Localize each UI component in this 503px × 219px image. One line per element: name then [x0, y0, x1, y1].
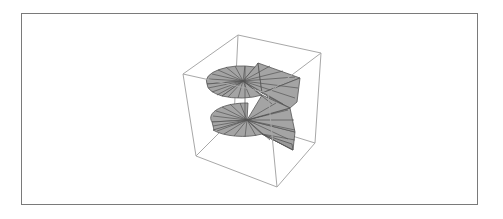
- helicoid-plot: [0, 0, 503, 219]
- helicoid-surface: [206, 63, 300, 150]
